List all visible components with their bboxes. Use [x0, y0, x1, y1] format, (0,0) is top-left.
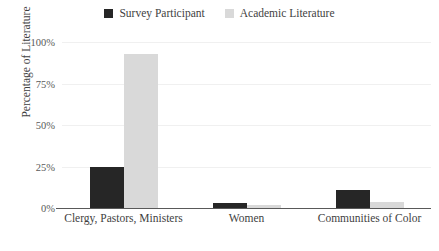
x-axis-category-label: Clergy, Pastors, Ministers [62, 212, 185, 224]
bar-group [185, 42, 308, 208]
x-axis-line [56, 208, 431, 209]
y-axis-tick-label: 50% [36, 120, 55, 131]
bar-chart: Survey Participant Academic Literature P… [0, 0, 439, 251]
x-axis-category-label: Women [185, 212, 308, 224]
y-axis-tick-label: 75% [36, 78, 55, 89]
y-axis-title: Percentage of Literature [20, 0, 32, 137]
legend-swatch-academic-literature [225, 9, 234, 18]
x-axis-category-labels: Clergy, Pastors, MinistersWomenCommuniti… [62, 212, 431, 224]
bar [90, 167, 124, 209]
bar [124, 54, 158, 208]
bar [336, 190, 370, 208]
legend-label-survey-participant: Survey Participant [119, 8, 204, 19]
chart-legend: Survey Participant Academic Literature [0, 8, 439, 19]
bar-group [62, 42, 185, 208]
legend-item-academic-literature: Academic Literature [225, 8, 335, 19]
y-axis-tick-label: 0% [41, 203, 55, 214]
legend-item-survey-participant: Survey Participant [104, 8, 204, 19]
legend-swatch-survey-participant [104, 9, 113, 18]
bar-groups [62, 42, 431, 208]
bar-group [308, 42, 431, 208]
y-axis-tick-label: 25% [36, 161, 55, 172]
x-axis-category-label: Communities of Color [308, 212, 431, 224]
plot-area: 0%25%50%75%100% [62, 42, 431, 208]
legend-label-academic-literature: Academic Literature [240, 8, 335, 19]
y-axis-tick-label: 100% [31, 37, 56, 48]
